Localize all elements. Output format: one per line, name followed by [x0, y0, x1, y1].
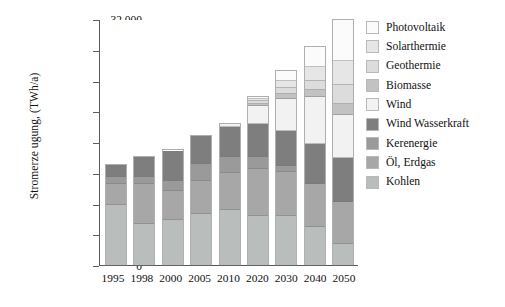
- bar-segment: [333, 115, 353, 158]
- bar-segment: [134, 157, 154, 177]
- bar-segment: [276, 99, 296, 131]
- bar-segment: [333, 158, 353, 202]
- bar-column: [248, 20, 268, 265]
- bar-column: [305, 20, 325, 265]
- legend-swatch: [366, 118, 379, 131]
- bar-segment: [106, 177, 126, 184]
- bar-segment: [276, 172, 296, 216]
- legend-item[interactable]: Biomasse: [366, 76, 505, 95]
- bar-segment: [220, 210, 240, 265]
- bar-group: [100, 20, 358, 265]
- legend-item[interactable]: Wind Wasserkraft: [366, 114, 505, 133]
- chart-legend: PhotovoltaikSolarthermieGeothermieBiomas…: [366, 18, 505, 192]
- bar-column: [134, 20, 154, 265]
- legend-swatch: [366, 40, 379, 53]
- x-tick-label: 1998: [128, 272, 156, 284]
- bar-segment: [333, 61, 353, 86]
- bar-segment: [333, 85, 353, 104]
- legend-swatch: [366, 60, 379, 73]
- legend-label: Kohlen: [386, 176, 420, 188]
- legend-item[interactable]: Kerenergie: [366, 134, 505, 153]
- bar-segment: [305, 90, 325, 98]
- bar-segment: [163, 181, 183, 191]
- x-tick-label: 2050: [330, 272, 358, 284]
- legend-label: Biomasse: [386, 80, 431, 92]
- legend-item[interactable]: Photovoltaik: [366, 18, 505, 37]
- legend-label: Photovoltaik: [386, 22, 445, 34]
- bar-segment: [220, 157, 240, 172]
- stacked-bar[interactable]: [163, 150, 183, 265]
- bar-segment: [191, 181, 211, 213]
- bar-segment: [220, 173, 240, 211]
- bar-segment: [333, 20, 353, 61]
- bar-segment: [248, 216, 268, 265]
- x-axis-tick-labels: 199519982000200520102020203020402050: [99, 272, 358, 284]
- x-tick-label: 2010: [215, 272, 243, 284]
- legend-item[interactable]: Kohlen: [366, 172, 505, 191]
- bar-column: [163, 20, 183, 265]
- legend-item[interactable]: Wind: [366, 95, 505, 114]
- legend-label: Wind: [386, 99, 411, 111]
- stacked-bar[interactable]: [220, 124, 240, 265]
- bar-segment: [305, 47, 325, 68]
- legend-item[interactable]: Solarthermie: [366, 37, 505, 56]
- y-axis-title: Stromerze ugung, (TWh/a): [28, 36, 40, 236]
- legend-label: Wind Wasserkraft: [386, 118, 469, 130]
- bar-segment: [248, 124, 268, 156]
- bar-segment: [191, 214, 211, 266]
- bar-segment: [134, 184, 154, 223]
- bar-column: [191, 20, 211, 265]
- legend-label: Geothermie: [386, 60, 441, 72]
- bar-segment: [163, 191, 183, 219]
- bar-segment: [276, 131, 296, 166]
- bar-column: [106, 20, 126, 265]
- x-tick-label: 1995: [99, 272, 127, 284]
- bar-segment: [191, 136, 211, 164]
- bar-segment: [276, 216, 296, 265]
- stacked-bar[interactable]: [134, 157, 154, 265]
- bar-segment: [220, 127, 240, 158]
- x-tick-label: 2020: [243, 272, 271, 284]
- stacked-bar[interactable]: [191, 136, 211, 265]
- x-tick-label: 2000: [157, 272, 185, 284]
- bar-segment: [163, 151, 183, 182]
- x-tick-label: 2040: [301, 272, 329, 284]
- chart-figure: Stromerze ugung, (TWh/a) 32.00028.00024.…: [0, 0, 505, 307]
- bar-column: [220, 20, 240, 265]
- legend-item[interactable]: Öl, Erdgas: [366, 153, 505, 172]
- legend-swatch: [366, 98, 379, 111]
- y-tick-mark: [93, 266, 99, 267]
- stacked-bar[interactable]: [276, 71, 296, 265]
- bar-segment: [106, 205, 126, 265]
- legend-swatch: [366, 21, 379, 34]
- legend-swatch: [366, 137, 379, 150]
- bar-segment: [248, 169, 268, 216]
- bar-segment: [134, 177, 154, 185]
- legend-label: Solarthermie: [386, 41, 446, 53]
- bar-segment: [305, 144, 325, 184]
- stacked-bar[interactable]: [305, 47, 325, 265]
- bar-segment: [305, 97, 325, 144]
- stacked-bar[interactable]: [333, 20, 353, 265]
- bar-segment: [248, 106, 268, 124]
- bar-column: [276, 20, 296, 265]
- bar-segment: [276, 71, 296, 82]
- bar-segment: [305, 81, 325, 90]
- bar-segment: [305, 227, 325, 265]
- bar-segment: [248, 157, 268, 169]
- bar-segment: [333, 244, 353, 265]
- bar-segment: [305, 67, 325, 80]
- legend-swatch: [366, 79, 379, 92]
- plot-area: [99, 20, 358, 266]
- legend-swatch: [366, 156, 379, 169]
- bar-segment: [106, 184, 126, 205]
- legend-item[interactable]: Geothermie: [366, 57, 505, 76]
- bar-segment: [276, 81, 296, 88]
- bar-segment: [106, 165, 126, 177]
- legend-label: Kerenergie: [386, 138, 437, 150]
- legend-label: Öl, Erdgas: [386, 157, 436, 169]
- stacked-bar[interactable]: [248, 97, 268, 265]
- x-tick-label: 2005: [186, 272, 214, 284]
- bar-segment: [163, 220, 183, 265]
- stacked-bar[interactable]: [106, 165, 126, 265]
